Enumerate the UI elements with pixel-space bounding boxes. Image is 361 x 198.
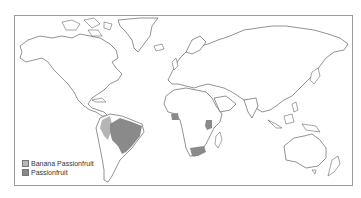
- iceland: [154, 44, 164, 51]
- legend-label: Passionfruit: [31, 168, 68, 177]
- new-zealand: [328, 156, 340, 176]
- arctic-island: [84, 18, 100, 28]
- madagascar: [215, 132, 222, 148]
- arctic-island: [88, 30, 102, 36]
- new-guinea: [302, 124, 320, 132]
- greenland: [118, 18, 158, 52]
- cuba: [92, 98, 106, 102]
- legend-swatch-light: [22, 160, 29, 167]
- philippines: [292, 102, 298, 112]
- legend-swatch-dark: [22, 169, 29, 176]
- sumatra: [268, 120, 282, 128]
- region-passionfruit-west-africa: [171, 113, 179, 120]
- borneo: [284, 114, 294, 124]
- legend-item-passionfruit: Passionfruit: [22, 168, 94, 177]
- legend-label: Banana Passionfruit: [31, 159, 94, 168]
- australia: [284, 134, 326, 168]
- arctic-island: [104, 22, 112, 30]
- tasmania: [312, 170, 316, 174]
- arctic-islands: [62, 20, 80, 30]
- legend-item-banana-passionfruit: Banana Passionfruit: [22, 159, 94, 168]
- north-america: [20, 34, 122, 116]
- india: [244, 98, 258, 118]
- africa: [164, 88, 222, 156]
- map-legend: Banana Passionfruit Passionfruit: [22, 159, 94, 177]
